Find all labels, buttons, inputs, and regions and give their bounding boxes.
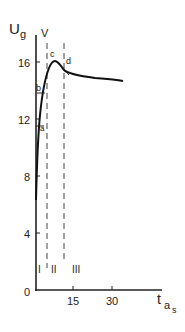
xtick-15: 15 xyxy=(67,295,79,307)
y-axis-title-sub: g xyxy=(20,28,26,40)
xtick-30: 30 xyxy=(106,295,118,307)
region-1: I xyxy=(38,264,41,275)
region-3: III xyxy=(72,264,80,275)
ytick-4: 4 xyxy=(24,228,30,240)
ytick-16: 16 xyxy=(18,57,30,69)
point-c: c xyxy=(50,49,55,59)
chart: 0 4 8 12 16 15 30 U g V t a s a b c d I … xyxy=(0,0,185,332)
region-2: II xyxy=(51,264,57,275)
x-axis-title: t xyxy=(157,291,161,307)
x-axis-title-subsub: s xyxy=(172,305,177,315)
y-axis-unit: V xyxy=(41,27,49,39)
ytick-0: 0 xyxy=(24,286,30,298)
point-b: b xyxy=(36,83,41,93)
point-a: a xyxy=(40,124,45,133)
ytick-8: 8 xyxy=(24,171,30,183)
data-curve xyxy=(36,61,123,200)
point-d: d xyxy=(66,56,71,66)
y-axis-title: U xyxy=(9,20,20,37)
ytick-12: 12 xyxy=(18,114,30,126)
x-axis-title-sub: a xyxy=(164,299,171,311)
